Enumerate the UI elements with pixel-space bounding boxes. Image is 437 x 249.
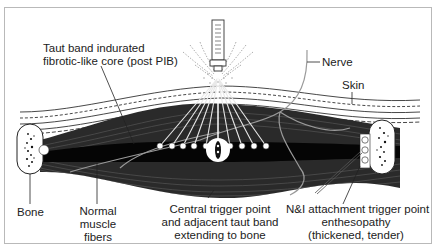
label-attachment-trigger-point: N&I attachment trigger point enthesopath… [286, 203, 426, 242]
label-skin: Skin [342, 79, 364, 92]
label-normal-muscle-fibers: Normal muscle fibers [78, 205, 118, 244]
syringe [210, 20, 226, 71]
label-bone: Bone [17, 206, 44, 219]
central-trigger-point [206, 138, 230, 162]
label-taut-band: Taut band indurated fibrotic-like core (… [43, 42, 178, 68]
label-central-trigger-point: Central trigger point and adjacent taut … [155, 203, 285, 242]
label-nerve: Nerve [322, 56, 353, 69]
